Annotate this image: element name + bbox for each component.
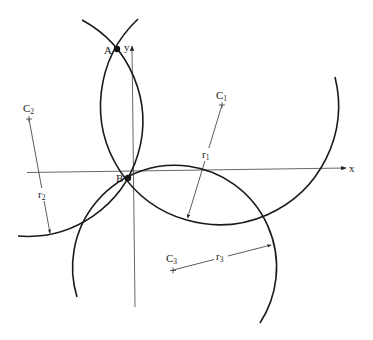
diagram-canvas: A B y x C1 C2 C3 r1 r2 r3	[0, 0, 373, 340]
center-2-mark	[26, 116, 32, 122]
y-axis-label: y	[124, 41, 130, 53]
center-3-mark	[170, 268, 176, 274]
circle-1-arc	[101, 19, 339, 225]
point-b-dot	[125, 175, 131, 181]
point-b-label: B	[116, 172, 123, 184]
circle-3-arc	[73, 165, 277, 323]
x-axis	[27, 168, 346, 173]
trilateration-diagram: A B y x C1 C2 C3 r1 r2 r3	[0, 0, 373, 340]
x-axis-label: x	[349, 162, 355, 174]
center-2-label: C2	[23, 102, 34, 116]
radius-2-line	[29, 119, 50, 233]
point-a-dot	[114, 46, 120, 52]
y-axis	[132, 46, 135, 307]
point-a-label: A	[104, 44, 112, 56]
center-3-label: C3	[166, 252, 177, 266]
center-1-label: C1	[216, 89, 227, 103]
